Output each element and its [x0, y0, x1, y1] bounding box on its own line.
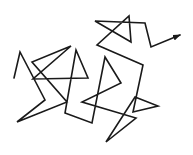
random-walk-diagram: [0, 0, 193, 155]
walk-path: [14, 16, 180, 142]
